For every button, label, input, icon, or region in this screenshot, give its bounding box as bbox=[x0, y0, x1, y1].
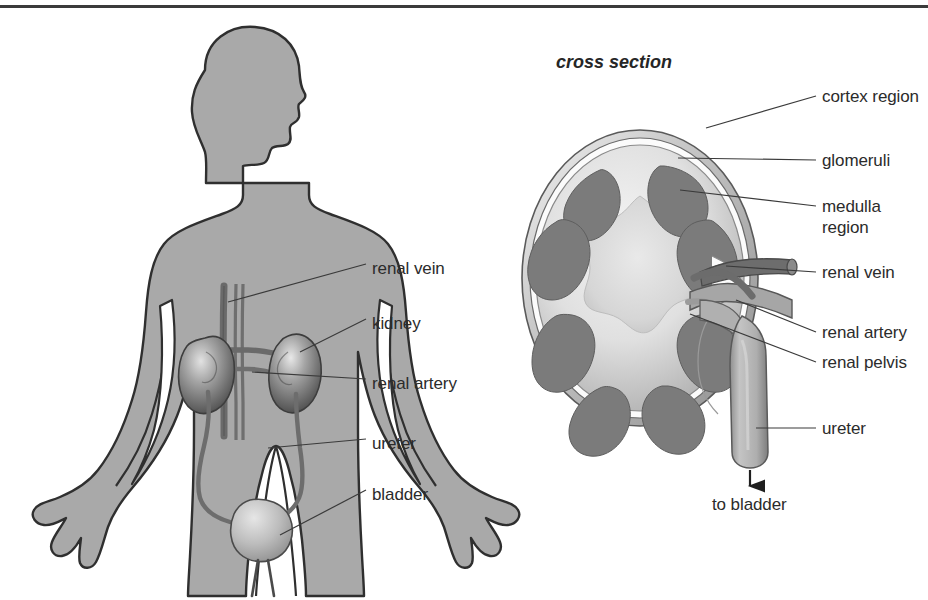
cross-section-title: cross section bbox=[556, 52, 672, 73]
label-bladder: bladder bbox=[372, 484, 428, 505]
label-renal-artery: renal artery bbox=[372, 373, 457, 394]
label-renal-vein: renal vein bbox=[372, 258, 445, 279]
label-glomeruli: glomeruli bbox=[822, 150, 890, 171]
label-ureter-cross-section: ureter bbox=[822, 418, 866, 439]
label-kidney: kidney bbox=[372, 313, 421, 334]
label-cortex-region: cortex region bbox=[822, 86, 928, 107]
label-medulla-region: medulla region bbox=[822, 196, 928, 238]
label-renal-artery-cross-section: renal artery bbox=[822, 322, 907, 343]
label-to-bladder: to bladder bbox=[712, 494, 787, 515]
label-renal-vein-cross-section: renal vein bbox=[822, 262, 895, 283]
label-ureter: ureter bbox=[372, 433, 416, 454]
label-renal-pelvis: renal pelvis bbox=[822, 352, 907, 373]
diagram-canvas bbox=[0, 0, 928, 600]
urinary-system-figure: cross section renal vein kidney renal ar… bbox=[0, 0, 928, 600]
